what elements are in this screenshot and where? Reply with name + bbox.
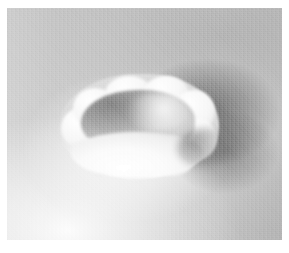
crater-structure (59, 74, 219, 184)
crater-right-crease (177, 128, 235, 168)
cavity-specular-highlight (125, 92, 191, 132)
micrograph-image (7, 8, 282, 240)
micrograph-figure (0, 0, 289, 253)
